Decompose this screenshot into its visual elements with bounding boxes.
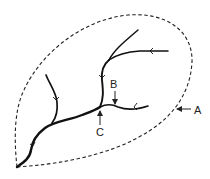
upper-headwater — [109, 30, 138, 60]
label-a: A — [194, 104, 202, 116]
central-trunk — [100, 60, 109, 107]
main-stream — [17, 107, 100, 167]
label-b: B — [110, 78, 117, 90]
flow-direction-arrows — [30, 48, 153, 146]
right-tributary — [100, 105, 148, 109]
drainage-basin-diagram: B C A — [0, 0, 210, 179]
upper-right-branch — [109, 51, 168, 60]
label-c: C — [96, 126, 104, 138]
